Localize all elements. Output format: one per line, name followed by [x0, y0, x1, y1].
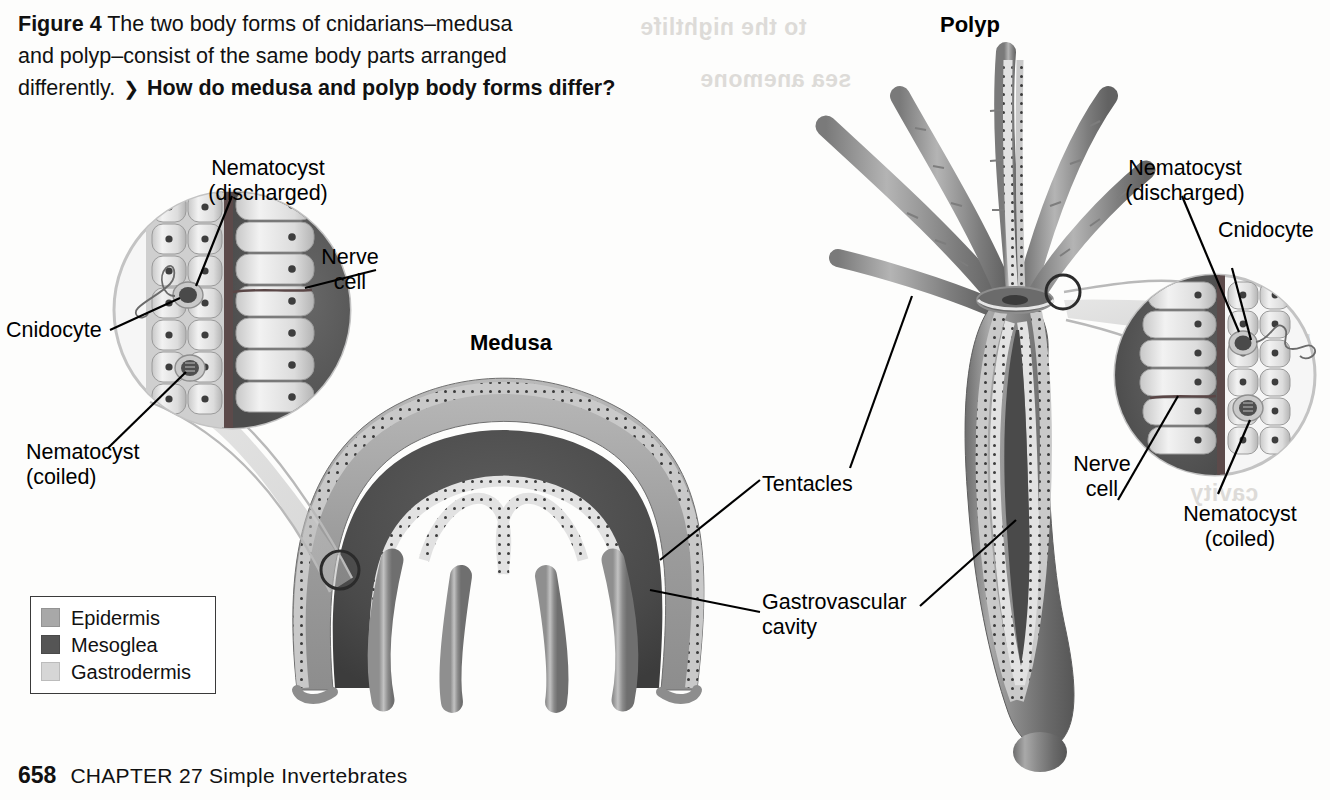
chapter-title: CHAPTER 27 Simple Invertebrates [70, 764, 407, 787]
polyp-mouth [977, 287, 1053, 313]
figure-page: to the nightlife sea anemone EPIDERMIS c… [0, 0, 1330, 800]
medusa-tentacles [379, 560, 627, 702]
label-gastrovascular-cavity: Gastrovascular cavity [762, 590, 907, 640]
medusa-diagram [293, 378, 704, 702]
legend-label-mesoglea: Mesoglea [71, 634, 158, 656]
leader-gastrovascular-polyp [920, 520, 1016, 606]
ghost-text-3: EPIDERMIS [1180, 330, 1311, 357]
question-arrow-icon: ❯ [121, 78, 141, 99]
legend-label-epidermis: Epidermis [71, 607, 160, 629]
right-inset-epidermis-cells [1228, 282, 1290, 454]
medusa-gastrodermis [375, 481, 626, 686]
discharged-thread-right [1256, 325, 1315, 358]
polyp-body-column [965, 292, 1074, 749]
label-tentacles: Tentacles [762, 472, 853, 497]
legend-swatch-gastrodermis [41, 662, 60, 681]
leader-nematocyst-discharged-right [1182, 196, 1239, 332]
figure-caption: Figure 4 The two body forms of cnidarian… [18, 8, 618, 105]
label-cnidocyte-right: Cnidocyte [1218, 218, 1314, 243]
medusa-epidermis-cells [300, 388, 698, 688]
left-inset-gastrodermis-cells [236, 190, 314, 412]
legend: Epidermis Mesoglea Gastrodermis [30, 596, 216, 694]
leader-nematocyst-coiled-left [108, 372, 186, 448]
polyp-gastrodermis [995, 322, 1034, 684]
legend-swatch-mesoglea [41, 635, 60, 654]
right-magnifier-cone [1046, 275, 1196, 360]
polyp-basal-disc [1013, 732, 1067, 772]
legend-item-gastrodermis: Gastrodermis [41, 658, 207, 685]
polyp-gastrovascular-cavity [1004, 330, 1029, 666]
caption-line-1: The two body forms of cnidarians–medusa [107, 12, 512, 36]
legend-swatch-epidermis [41, 608, 60, 627]
ghost-text-1: to the nightlife [640, 14, 806, 41]
figure-number: Figure 4 [18, 12, 102, 36]
caption-line-3: differently. [18, 76, 115, 100]
polyp-epidermis-cells [982, 310, 1016, 700]
leader-tentacles-medusa [660, 480, 760, 560]
legend-label-gastrodermis: Gastrodermis [71, 661, 191, 683]
left-magnifier-cone [150, 402, 359, 592]
right-inset-magnification [1110, 275, 1315, 481]
medusa-epidermis [293, 378, 704, 690]
label-nerve-cell-right: Nerve cell [1052, 452, 1152, 502]
leader-gastrovascular-medusa [650, 590, 760, 612]
ghost-text-2: sea anemone [700, 66, 851, 93]
caption-line-2: and polyp–consist of the same body parts… [18, 44, 507, 68]
left-inset-magnification [114, 186, 360, 436]
medusa-fold-left [424, 498, 506, 574]
label-nematocyst-discharged-left: Nematocyst (discharged) [168, 156, 368, 206]
label-cnidocyte-left: Cnidocyte [6, 318, 102, 343]
label-nematocyst-discharged-right: Nematocyst (discharged) [1090, 156, 1280, 206]
leader-cnidocyte-right [1232, 268, 1251, 340]
leader-nematocyst-coiled-right [1218, 420, 1250, 494]
leader-tentacles-polyp [850, 296, 912, 468]
legend-item-epidermis: Epidermis [41, 604, 207, 631]
page-number: 658 [18, 762, 56, 788]
label-nematocyst-coiled-right: Nematocyst (coiled) [1150, 502, 1330, 552]
label-polyp-title: Polyp [940, 12, 1000, 37]
medusa-mesoglea [333, 430, 663, 688]
label-medusa-title: Medusa [470, 330, 552, 355]
page-footer: 658CHAPTER 27 Simple Invertebrates [18, 762, 408, 789]
caption-question: How do medusa and polyp body forms diffe… [147, 76, 615, 100]
discharged-thread [136, 266, 175, 318]
right-inset-gastrodermis-cells [1140, 282, 1216, 454]
leader-lines [108, 196, 1251, 612]
label-nematocyst-coiled-left: Nematocyst (coiled) [26, 440, 140, 490]
legend-item-mesoglea: Mesoglea [41, 631, 207, 658]
leader-cnidocyte-left [110, 298, 180, 330]
left-inset-epidermis-cells [146, 190, 224, 430]
leader-nematocyst-discharged-left [196, 196, 232, 286]
label-nerve-cell-left: Nerve cell [300, 245, 400, 295]
medusa-fold-right [501, 498, 583, 574]
